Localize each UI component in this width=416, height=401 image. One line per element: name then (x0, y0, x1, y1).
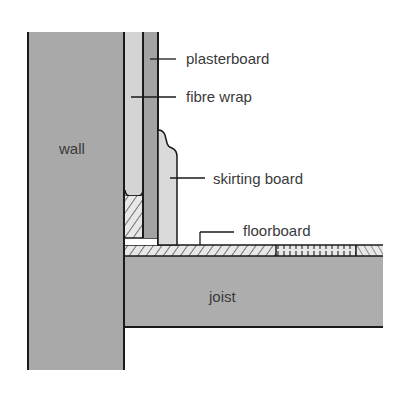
wall (27, 32, 124, 370)
label-wall: wall (58, 140, 85, 157)
joist (124, 256, 383, 327)
label-joist: joist (208, 288, 237, 305)
label-skirting-board: skirting board (213, 170, 303, 187)
label-fibre-wrap: fibre wrap (186, 88, 252, 105)
plasterboard (143, 32, 158, 238)
cross-section-diagram: plasterboard fibre wrap wall skirting bo… (0, 0, 416, 401)
floorboard-layer (124, 245, 383, 256)
skirting-board (158, 130, 177, 245)
gap-strip (125, 239, 158, 245)
batten (125, 196, 143, 238)
fibre-wrap (125, 32, 143, 196)
label-plasterboard: plasterboard (186, 50, 269, 67)
label-floorboard: floorboard (243, 222, 311, 239)
